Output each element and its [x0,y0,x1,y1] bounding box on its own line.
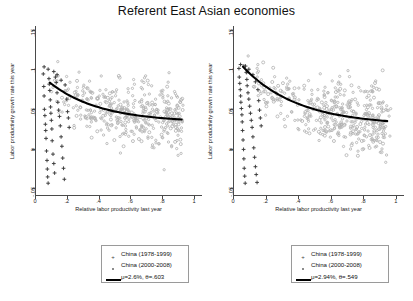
line-marker [295,268,311,284]
legend-label: μ=2.94%, θ=.549 [311,273,358,280]
x-axis-title: Relative labor productivity last year [233,206,404,212]
x-tick-label: 0 [231,198,234,204]
scatter-canvas [234,26,404,195]
legend-label: China (1978-1999) [311,250,362,257]
plot-area [234,26,404,195]
plot-frame [35,26,202,196]
left-panel: Labor productivity growth rate this year… [8,26,204,226]
y-axis-title-text: Labor productivity growth rate this year [207,63,213,159]
y-axis-title-text: Labor productivity growth rate this year [9,63,15,159]
x-tick-label: .8 [361,198,366,204]
x-axis-line [233,195,404,196]
scatter-canvas [36,26,202,195]
line-marker [105,268,121,284]
line-glyph [296,279,311,281]
x-tick-label: .4 [96,198,101,204]
legend-label: China (1978-1999) [121,250,172,257]
right-legend: +China (1978-1999)China (2000-2008)μ=2.9… [291,245,389,283]
x-tick-label: .6 [128,198,133,204]
late-period-scatter [50,60,184,170]
x-axis-line [35,195,202,196]
right-panel: Labor productivity growth rate this year… [206,26,406,226]
y-tick-mark [230,109,233,110]
left-legend: +China (1978-1999)China (2000-2008)μ=2.6… [101,245,189,283]
y-tick-mark [230,30,233,31]
line-glyph [106,279,121,281]
x-tick-label: .8 [160,198,165,204]
legend-label: μ=2.6%, θ=.603 [121,273,164,280]
early-period-scatter [41,65,71,185]
chart-title: Referent East Asian economies [0,4,413,18]
y-tick-mark [32,188,35,189]
plot-frame [233,26,404,196]
plot-area [36,26,202,195]
x-tick-label: .2 [64,198,69,204]
y-tick-mark [230,149,233,150]
x-tick-label: .2 [263,198,268,204]
x-tick-label: 1 [394,198,397,204]
y-tick-mark [230,188,233,189]
late-period-scatter [245,55,392,164]
chart-figure: Referent East Asian economies Labor prod… [0,0,413,301]
x-tick-label: .6 [328,198,333,204]
legend-row: μ=2.94%, θ=.549 [295,271,384,282]
y-tick-mark [230,69,233,70]
x-axis-title: Relative labor productivity last year [35,206,202,212]
legend-label: China (2000-2008) [311,261,362,268]
legend-label: China (2000-2008) [121,261,172,268]
x-tick-label: 0 [33,198,36,204]
y-axis-tick-labels: -.050.05.1.15 [215,26,232,196]
y-tick-mark [32,109,35,110]
x-tick-label: .4 [296,198,301,204]
y-axis-tick-labels: -.050.05.1.15 [17,26,34,196]
x-tick-label: 1 [192,198,195,204]
y-tick-mark [32,149,35,150]
y-tick-mark [32,69,35,70]
legend-row: μ=2.6%, θ=.603 [105,271,184,282]
y-tick-mark [32,30,35,31]
